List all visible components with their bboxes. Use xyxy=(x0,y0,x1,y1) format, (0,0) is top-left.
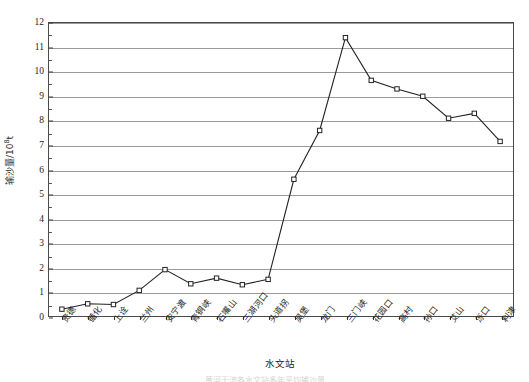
data-point-marker xyxy=(343,35,347,39)
plot-area: 0123456789101112 xyxy=(48,22,514,317)
y-axis-title-unit: t xyxy=(6,135,16,139)
y-axis-title: 输沙量/108t xyxy=(2,0,18,320)
y-tick-label: 11 xyxy=(35,43,44,53)
data-point-marker xyxy=(189,282,193,286)
data-point-marker xyxy=(421,94,425,98)
y-tick-label: 0 xyxy=(39,313,44,323)
y-axis-title-text: 输沙量/108t xyxy=(4,135,17,184)
sediment-transport-line-chart: 输沙量/108t 0123456789101112 贵德循化上诠兰州安宁渡青铜峡… xyxy=(0,0,529,382)
data-point-marker xyxy=(446,116,450,120)
data-point-marker xyxy=(498,139,502,143)
y-tick-label: 1 xyxy=(39,289,44,299)
x-axis-title: 水文站 xyxy=(0,356,529,370)
y-tick-label: 8 xyxy=(39,117,44,127)
figure-caption: 黄河干流各水文站多年平均输沙量 xyxy=(0,374,529,382)
y-tick-label: 7 xyxy=(39,141,44,151)
y-tick-label: 4 xyxy=(39,215,44,225)
data-point-marker xyxy=(317,128,321,132)
y-tick-label: 9 xyxy=(39,92,44,102)
series-line xyxy=(62,38,500,310)
y-tick-label: 2 xyxy=(39,264,44,274)
data-point-marker xyxy=(240,283,244,287)
data-series-svg xyxy=(49,23,513,316)
data-point-marker xyxy=(472,111,476,115)
y-tick-label: 5 xyxy=(39,190,44,200)
y-tick-label: 10 xyxy=(35,67,45,77)
y-tick-label: 3 xyxy=(39,240,44,250)
y-axis-title-base: 输沙量/10 xyxy=(6,143,16,184)
y-tick-label: 6 xyxy=(39,166,44,176)
data-point-marker xyxy=(369,78,373,82)
data-point-marker xyxy=(60,307,64,311)
data-point-marker xyxy=(214,276,218,280)
data-point-marker xyxy=(292,177,296,181)
data-point-marker xyxy=(395,87,399,91)
data-point-marker xyxy=(163,267,167,271)
y-tick-label: 12 xyxy=(35,18,45,28)
data-point-marker xyxy=(266,277,270,281)
y-axis-title-exponent: 8 xyxy=(4,139,12,143)
data-point-marker xyxy=(85,302,89,306)
data-point-marker xyxy=(111,302,115,306)
data-point-marker xyxy=(137,288,141,292)
